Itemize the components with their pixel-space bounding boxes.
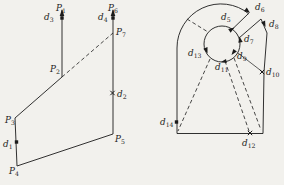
label-P4: P4 (8, 166, 19, 177)
marker-d12-point (248, 131, 252, 135)
label-d11: d11 (215, 62, 229, 73)
left-figure (15, 9, 115, 166)
segment-p2-p3 (15, 77, 62, 118)
label-d3: d3 (44, 12, 54, 23)
label-P1: P1 (55, 3, 66, 14)
label-d6: d6 (255, 2, 265, 13)
diagram-stage: P1d3P6d4P7P2d2P3P5d1P4d5d6d8d7d13d9d11d1… (0, 0, 284, 185)
label-d9: d9 (237, 51, 247, 62)
label-d10: d10 (266, 67, 280, 78)
markers-layer (15, 16, 264, 143)
marker-d10-point (260, 70, 264, 74)
label-P5: P5 (114, 134, 125, 145)
label-P3: P3 (4, 115, 15, 126)
label-d8: d8 (269, 19, 279, 30)
label-d1: d1 (3, 139, 13, 150)
dashed-circle-to-right-corner (234, 58, 261, 130)
label-d13: d13 (188, 48, 202, 59)
slot-upper-edge (233, 14, 249, 29)
label-P6: P6 (107, 3, 118, 14)
marker-d4-point (111, 16, 114, 19)
label-d7: d7 (244, 34, 254, 45)
marker-d3-point (60, 16, 63, 19)
label-d2: d2 (117, 89, 127, 100)
inner-circle (204, 26, 240, 62)
marker-d1-point (15, 140, 18, 143)
dashed-circle-to-d12 (225, 61, 249, 131)
labels-layer: P1d3P6d4P7P2d2P3P5d1P4d5d6d8d7d13d9d11d1… (3, 2, 280, 177)
label-P7: P7 (115, 27, 126, 38)
diagram-canvas: P1d3P6d4P7P2d2P3P5d1P4d5d6d8d7d13d9d11d1… (0, 0, 284, 185)
dashed-outer-to-circle (187, 19, 208, 32)
label-d14: d14 (160, 117, 174, 128)
slot-lower-edge (239, 19, 261, 38)
label-d4: d4 (98, 12, 108, 23)
dashed-circle-to-left-corner (178, 59, 210, 131)
dashed-cut-p2-p7 (62, 33, 113, 77)
marker-d14-point (175, 120, 178, 123)
marker-d2-point (110, 91, 114, 95)
segment-p4-p5 (17, 134, 113, 166)
label-d12: d12 (242, 138, 256, 149)
label-P2: P2 (49, 64, 60, 75)
label-d5: d5 (221, 12, 231, 23)
arrow-d13-icon (203, 47, 207, 53)
